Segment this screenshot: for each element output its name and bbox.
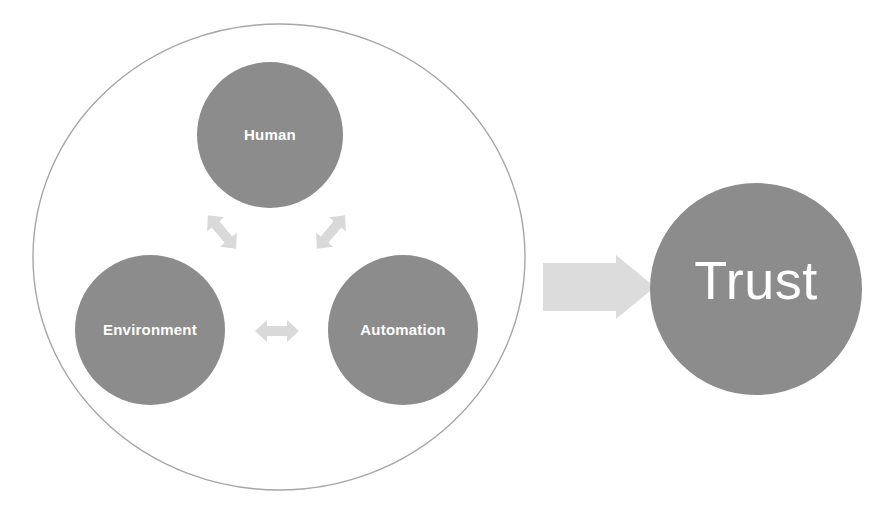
node-environment: Environment (75, 255, 225, 405)
node-environment-label: Environment (103, 321, 197, 338)
outcome-block-arrow-icon (543, 255, 655, 319)
node-automation-label: Automation (360, 321, 445, 338)
connector-human-environment (199, 208, 244, 256)
node-trust-label: Trust (694, 250, 818, 310)
trust-concept-diagram: Human Environment Automation Trust (0, 0, 885, 525)
diagram-canvas: Human Environment Automation Trust (0, 0, 885, 525)
connector-environment-automation (255, 320, 299, 342)
connector-human-automation (308, 208, 353, 256)
node-human-label: Human (244, 126, 296, 143)
node-trust: Trust (650, 183, 862, 395)
node-human: Human (197, 62, 343, 208)
node-automation: Automation (328, 255, 478, 405)
